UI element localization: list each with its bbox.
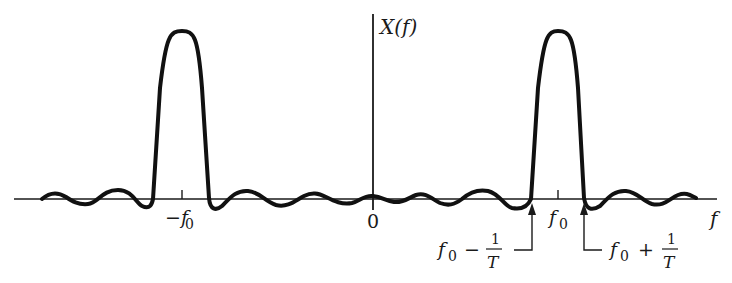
left-edge-arrow [514,212,532,250]
origin-label: 0 [367,210,379,232]
spectrum-diagram: X(f) f 0 −f 0 f 0 f 0 − 1 T f 0 + 1 T [0,0,732,283]
svg-text:1: 1 [491,231,500,247]
svg-text:f: f [608,238,620,260]
spectrum-curve [42,31,696,209]
svg-text:−: − [464,238,480,260]
y-axis-label: X(f) [378,15,417,39]
svg-text:T: T [663,252,676,272]
x-axis-label: f [708,207,721,231]
annotation-f0-minus-1-over-T: f 0 − 1 T [436,231,502,272]
svg-text:T: T [487,252,500,272]
right-edge-arrow [584,212,602,250]
svg-text:f: f [436,238,448,260]
annotation-f0-plus-1-over-T: f 0 + 1 T [608,231,678,272]
svg-text:0: 0 [448,248,457,264]
svg-text:1: 1 [667,231,676,247]
pos-f0-subscript: 0 [559,216,568,232]
svg-text:+: + [638,238,654,260]
pos-f0-label: f [547,206,559,228]
neg-f0-subscript: 0 [185,216,194,232]
svg-text:0: 0 [620,248,629,264]
